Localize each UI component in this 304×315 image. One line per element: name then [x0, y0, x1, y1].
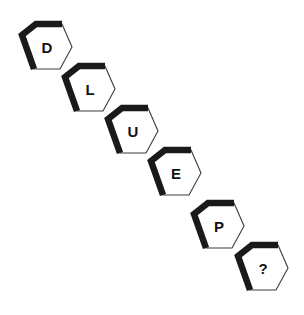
hex-letter: E [147, 148, 203, 198]
hex-letter: ? [234, 243, 290, 293]
puzzle-canvas: DLUEP? [0, 0, 304, 315]
hex-cell-4: E [147, 148, 203, 198]
hex-cell-6[interactable]: ? [234, 243, 290, 293]
